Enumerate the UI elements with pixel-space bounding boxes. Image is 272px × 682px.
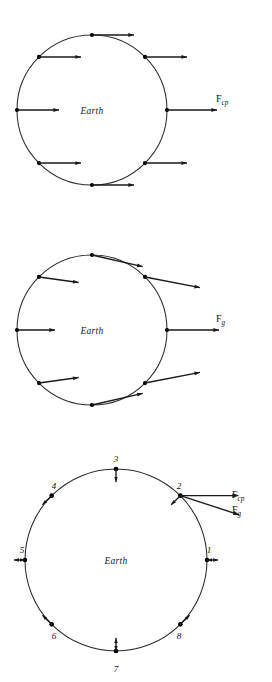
centripetal-vector-point-lower-right-head (181, 161, 187, 165)
centripetal-vector-point-right-head (211, 108, 217, 112)
gravity-vector-point-lower-left (39, 378, 79, 384)
tidal-vector-5-head (14, 558, 19, 561)
gravity-vector-point-bottom (92, 393, 143, 405)
force-label-fg: Fg (216, 313, 226, 327)
figure-root: EarthFcp EarthFg Earth12345678FcpFg (0, 0, 272, 682)
point-number-6: 6 (52, 631, 57, 641)
point-number-2: 2 (177, 481, 182, 491)
centripetal-vector-point-upper-left-head (75, 55, 81, 59)
earth-body-label: Earth (79, 326, 103, 336)
force-label-fcp: Fcp (232, 489, 245, 503)
earth-body-label: Earth (79, 106, 103, 116)
tidal-vector-7-head (114, 638, 117, 643)
tidal-force-figure: EarthFcp EarthFg Earth12345678FcpFg (0, 0, 272, 682)
gravity-vector-point-right-head (213, 328, 219, 332)
panel-tidal: Earth12345678FcpFg (14, 454, 245, 674)
gravity-vector-point-upper-left (39, 277, 79, 283)
gravity-vector-point-top-head (137, 263, 143, 267)
panel-gravity: EarthFg (15, 253, 226, 407)
point-number-3: 3 (113, 454, 119, 464)
point-number-4: 4 (52, 481, 57, 491)
centripetal-vector-point-upper-right-head (181, 55, 187, 59)
centripetal-vector-point-bottom-head (128, 183, 134, 187)
point-number-1: 1 (207, 545, 212, 555)
tidal-vector-1-head (213, 558, 218, 561)
point-number-8: 8 (177, 631, 182, 641)
force-label-fcp: Fcp (216, 93, 229, 107)
centripetal-vector-point-top-head (128, 33, 134, 37)
gravity-vector-point-top (92, 255, 143, 267)
gravity-vector-point-left-head (49, 328, 55, 332)
tidal-vector-3-head (114, 477, 117, 482)
centripetal-vector-point-lower-left-head (75, 161, 81, 165)
panel-centripetal: EarthFcp (15, 33, 229, 187)
earth-body-label: Earth (103, 556, 127, 566)
centripetal-vector-point-left-head (53, 108, 59, 112)
point-number-7: 7 (114, 664, 119, 674)
point-number-5: 5 (20, 545, 25, 555)
force-label-fg: Fg (232, 504, 242, 518)
gravity-vector-point-bottom-head (137, 393, 143, 397)
